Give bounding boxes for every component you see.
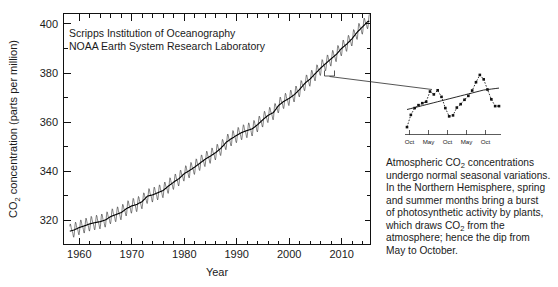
inset-data-point [421,102,424,105]
inset-series-monthly [407,75,499,127]
inset-x-tick-labels: Oct May Oct May Oct [405,138,491,145]
y-axis-right-ticks [365,24,371,221]
inset-data-point [433,93,436,96]
inset-data-point [456,106,459,109]
inset-tick-label: Oct [481,138,491,145]
inset-data-point [448,115,451,118]
inset-plot: Oct May Oct May Oct [405,74,501,145]
x-axis-title: Year [206,266,229,278]
x-axis-bottom-ticks [79,238,362,245]
inset-data-point [494,105,497,108]
inset-data-point [463,98,466,101]
inset-series-trend [407,88,499,109]
inset-data-point [413,107,416,110]
inset-data-point [429,90,432,93]
inset-data-point [498,105,501,108]
y-tick-label: 400 [40,18,58,30]
inset-data-point [467,95,470,98]
co2-keeling-curve-figure: 400 380 360 340 320 1960 1970 1980 1990 … [0,0,558,287]
inset-data-point [410,114,413,117]
caption-line-6: which draws CO2 from the [385,220,505,233]
caption-line-1: Atmospheric CO2 concentrations [386,157,534,170]
credit-block: Scripps Institution of Oceanography NOAA… [69,27,266,52]
inset-tick-label: May [423,138,436,145]
inset-data-point [436,89,439,92]
x-axis-top-ticks [79,14,362,21]
inset-data-point [440,96,443,99]
y-axis-title: CO2 concentration (parts per million) [7,40,22,218]
caption-line-8: May to October. [386,245,458,256]
y-axis-title-pre: CO [7,201,19,218]
inset-data-point [490,98,493,101]
x-axis-tick-labels: 1960 1970 1980 1990 2000 2010 [67,248,354,260]
caption-line-2: undergo normal seasonal variations. [386,170,550,181]
callout-bracket [325,71,335,77]
credit-line-scripps: Scripps Institution of Oceanography [69,27,236,39]
x-tick-label: 1980 [172,248,196,260]
inset-data-point [452,114,455,117]
y-axis-major-ticks [64,24,71,221]
x-tick-label: 2000 [277,248,301,260]
y-tick-label: 380 [40,67,58,79]
series-trend-co2 [70,21,370,231]
y-tick-label: 340 [40,165,58,177]
y-tick-label: 320 [40,214,58,226]
svg-text:CO2 concentration (parts per m: CO2 concentration (parts per million) [7,40,22,218]
caption-line-3: In the Northern Hemisphere, spring [386,182,545,193]
inset-data-point [425,100,428,103]
inset-data-point [486,88,489,91]
y-axis-title-post: concentration (parts per million) [7,40,19,197]
inset-data-point [406,126,409,129]
x-tick-label: 2010 [329,248,353,260]
inset-data-point [482,78,485,81]
x-tick-label: 1990 [224,248,248,260]
inset-tick-label: Oct [405,138,415,145]
caption-line-7: atmosphere; hence the dip from [386,232,530,243]
inset-data-point [471,89,474,92]
credit-line-noaa: NOAA Earth System Research Laboratory [69,40,266,52]
x-tick-label: 1970 [120,248,144,260]
inset-data-point [444,107,447,110]
inset-data-point [475,81,478,84]
x-tick-label: 1960 [67,248,91,260]
inset-data-markers [406,74,501,129]
inset-data-point [417,104,420,107]
inset-tick-label: Oct [443,138,453,145]
inset-x-ticks [410,130,486,135]
inset-tick-label: May [461,138,474,145]
y-tick-label: 360 [40,116,58,128]
caption-line-5: of photosynthetic activity by plants, [386,207,543,218]
figure-canvas: 400 380 360 340 320 1960 1970 1980 1990 … [0,0,558,287]
callout-leader-line [330,77,433,90]
inset-data-point [479,74,482,77]
caption-block: Atmospheric CO2 concentrations undergo n… [385,157,550,256]
inset-data-point [459,103,462,106]
y-axis-tick-labels: 400 380 360 340 320 [40,18,58,227]
caption-line-4: and summer months bring a burst [386,195,538,206]
